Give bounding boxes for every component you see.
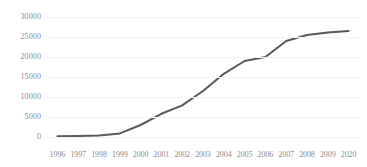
- y-tick-label: 10000: [0, 92, 41, 102]
- gridline: [47, 137, 359, 138]
- gridline: [47, 57, 359, 58]
- x-tick-label: 2020: [338, 150, 359, 160]
- gridline: [47, 97, 359, 98]
- x-tick-label: 2007: [276, 150, 297, 160]
- plot-area: [47, 17, 359, 137]
- gridline: [47, 37, 359, 38]
- chart-title: [0, 0, 367, 3]
- x-tick-label: 2003: [193, 150, 214, 160]
- x-tick-label: 2008: [297, 150, 318, 160]
- x-tick-label: 1999: [109, 150, 130, 160]
- gridline: [47, 77, 359, 78]
- x-tick-label: 2005: [234, 150, 255, 160]
- y-tick-label: 25000: [0, 32, 41, 42]
- x-tick-label: 2000: [130, 150, 151, 160]
- x-tick-label: 2002: [172, 150, 193, 160]
- y-tick-label: 20000: [0, 52, 41, 62]
- x-axis-tick-labels: 1996199719981999200020012002200320042005…: [47, 150, 359, 163]
- x-tick-label: 1996: [47, 150, 68, 160]
- x-tick-label: 1997: [68, 150, 89, 160]
- y-tick-label: 30000: [0, 12, 41, 22]
- y-tick-label: 15000: [0, 72, 41, 82]
- line-chart: 050001000015000200002500030000 199619971…: [0, 0, 367, 167]
- gridline: [47, 117, 359, 118]
- x-tick-label: 2004: [213, 150, 234, 160]
- y-tick-label: 5000: [0, 112, 41, 122]
- y-tick-label: 0: [0, 132, 41, 142]
- x-tick-label: 2006: [255, 150, 276, 160]
- x-tick-label: 1998: [89, 150, 110, 160]
- y-axis-tick-labels: 050001000015000200002500030000: [0, 11, 41, 143]
- x-tick-label: 2001: [151, 150, 172, 160]
- gridline: [47, 17, 359, 18]
- x-tick-label: 2009: [317, 150, 338, 160]
